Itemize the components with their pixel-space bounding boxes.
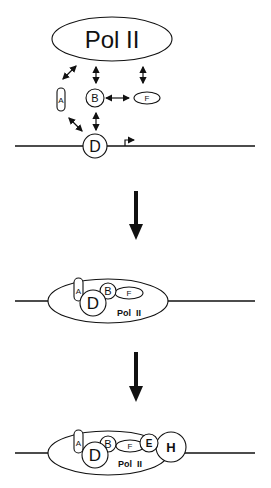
- factor-b-label: B: [104, 285, 111, 297]
- factor-b-label: B: [91, 92, 98, 104]
- stage-3-full-complex: A F B D H E Pol II: [15, 430, 255, 475]
- factor-a-label: A: [76, 287, 82, 296]
- factor-d-label: D: [89, 446, 101, 465]
- factor-a-label: A: [58, 96, 64, 105]
- arrow-a-d: [69, 118, 82, 131]
- arrow-pol-a: [63, 66, 76, 79]
- factor-a-label: A: [76, 439, 82, 448]
- factor-f-label: F: [145, 94, 150, 103]
- progression-arrow-2: [129, 352, 143, 402]
- pol-ii-label: Pol II: [118, 459, 142, 469]
- stage-2-partial-complex: A F B D Pol II: [15, 278, 255, 323]
- stage-1-free-factors: Pol II A B F D: [15, 17, 255, 158]
- factor-f-label: F: [128, 442, 133, 451]
- factor-d-label: D: [89, 138, 101, 155]
- factor-h-label: H: [166, 440, 175, 455]
- factor-d-label: D: [87, 294, 99, 313]
- factor-e-label: E: [146, 438, 153, 449]
- pol-ii-label: Pol II: [85, 26, 140, 53]
- factor-f-label: F: [127, 289, 132, 298]
- progression-arrow-1: [129, 191, 143, 240]
- pol-ii-label: Pol II: [117, 308, 141, 318]
- transcription-start-arrow: [125, 140, 134, 146]
- transcription-assembly-diagram: Pol II A B F D A F B D Pol II: [0, 0, 271, 488]
